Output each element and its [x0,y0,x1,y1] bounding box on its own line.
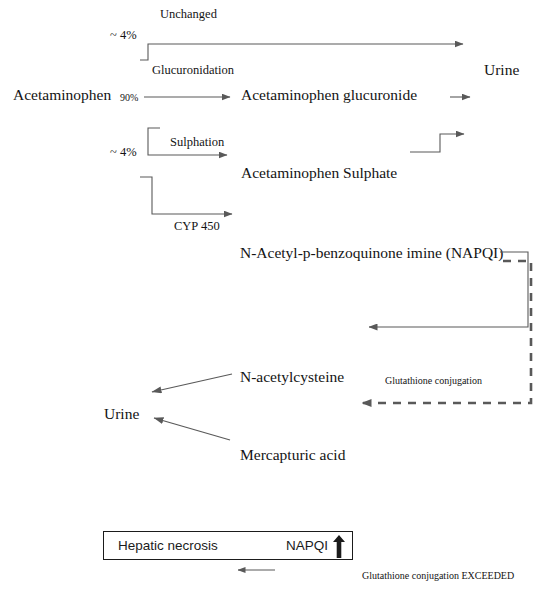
label-n-acetylcysteine: N-acetylcysteine [240,369,344,385]
arrow-mercapturic-acid-to-urine [154,418,230,440]
label-glutathione-conjugation: Glutathione conjugation [385,376,482,386]
label-mercapturic-acid: Mercapturic acid [240,447,345,463]
label-acetaminophen: Acetaminophen [13,87,111,103]
arrow-sulphate-to-urine [410,134,464,152]
arrow-unchanged-to-urine [140,44,463,60]
label-acetaminophen-sulphate: Acetaminophen Sulphate [241,165,397,181]
label-urine-top: Urine [484,62,519,78]
label-glutathione-exceeded: Glutathione conjugation EXCEEDED [362,571,514,581]
label-percent-sulphation: ~ 4% [110,146,137,159]
label-sulphation: Sulphation [170,136,224,149]
label-glucuronidation: Glucuronidation [152,64,234,77]
label-unchanged: Unchanged [160,8,217,21]
label-napqi-full: N-Acetyl-p-benzoquinone imine (NAPQI) [240,245,503,261]
label-urine-bottom: Urine [104,406,139,422]
arrow-napqi-solid-return [369,252,528,327]
up-arrow-icon [333,535,345,558]
metabolism-diagram: Unchanged ~ 4% Glucuronidation Acetamino… [0,0,546,597]
label-cyp450: CYP 450 [174,220,220,233]
label-percent-glucuronidation: 90% [120,93,138,103]
label-percent-unchanged: ~ 4% [110,29,137,42]
label-acetaminophen-glucuronide: Acetaminophen glucuronide [241,87,417,103]
arrow-cyp450 [140,177,232,214]
hepatic-necrosis-box: Hepatic necrosis NAPQI [103,531,353,560]
label-hepatic-necrosis: Hepatic necrosis [118,538,218,553]
arrow-n-acetylcysteine-to-urine [152,374,232,392]
label-napqi-short: NAPQI [286,538,328,553]
